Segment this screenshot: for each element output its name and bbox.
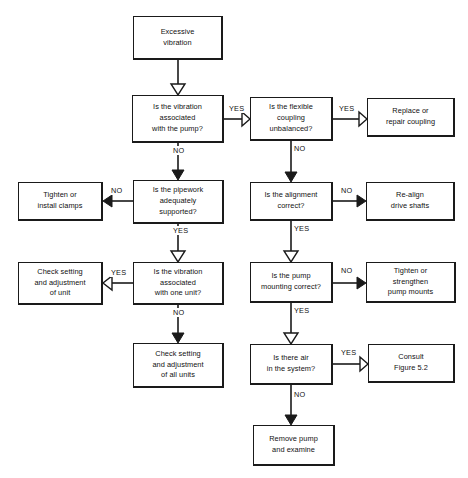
- edge-label-mounting-no: NO: [340, 266, 353, 275]
- edge-label-air-yes: YES: [340, 348, 357, 357]
- edge-label-vibration-yes: YES: [228, 104, 245, 113]
- edge-label-air-no: NO: [293, 390, 306, 399]
- node-label: Tighten or strengthen pump mounts: [388, 266, 433, 298]
- node-label: Is the pipework adequately supported?: [153, 185, 203, 217]
- node-re-align-drive-shafts[interactable]: Re-align drive shafts: [366, 182, 455, 221]
- node-excessive-vibration[interactable]: Excessive vibration: [133, 16, 223, 60]
- node-label: Tighten or install clamps: [37, 190, 82, 211]
- node-remove-pump-and-examine[interactable]: Remove pump and examine: [253, 425, 335, 466]
- node-label: Is the flexible coupling unbalanced?: [269, 102, 313, 134]
- edge-label-one-unit-yes: YES: [110, 268, 127, 277]
- node-label: Re-align drive shafts: [391, 190, 429, 211]
- node-label: Check setting and adjustment of unit: [34, 267, 85, 299]
- edge-label-vibration-no: NO: [172, 146, 185, 155]
- node-label: Is the vibration associated with one uni…: [154, 267, 203, 299]
- edge-label-one-unit-no: NO: [172, 308, 185, 317]
- node-label: Is the alignment correct?: [265, 190, 318, 211]
- node-is-alignment-correct[interactable]: Is the alignment correct?: [250, 182, 333, 221]
- flowchart-connectors: [0, 0, 468, 478]
- node-label: Consult Figure 5.2: [394, 352, 428, 373]
- node-is-pipework-adequately-supported[interactable]: Is the pipework adequately supported?: [133, 180, 224, 224]
- node-label: Is the vibration associated with the pum…: [152, 102, 203, 134]
- node-replace-or-repair-coupling[interactable]: Replace or repair coupling: [367, 98, 455, 137]
- node-is-there-air-in-the-system[interactable]: Is there air in the system?: [250, 344, 333, 385]
- node-check-setting-and-adjustment-of-all-units[interactable]: Check setting and adjustment of all unit…: [133, 343, 224, 388]
- connector-alignment-no-to-realign: [333, 195, 366, 207]
- node-label: Excessive vibration: [161, 27, 195, 48]
- node-tighten-or-install-clamps[interactable]: Tighten or install clamps: [18, 182, 103, 221]
- connector-start-to-vibration-question: [171, 60, 185, 95]
- connector-pipework-no-to-clamps: [103, 195, 133, 207]
- node-consult-figure[interactable]: Consult Figure 5.2: [368, 344, 455, 383]
- edge-label-mounting-yes: YES: [293, 306, 310, 315]
- edge-label-alignment-no: NO: [340, 186, 353, 195]
- edge-label-coupling-no: NO: [293, 144, 306, 153]
- node-is-vibration-associated-with-pump[interactable]: Is the vibration associated with the pum…: [132, 95, 224, 143]
- flowchart-canvas: Excessive vibration Is the vibration ass…: [0, 0, 468, 478]
- edge-label-alignment-yes: YES: [293, 224, 310, 233]
- connector-air-yes-to-consult: [333, 357, 368, 371]
- connector-mounting-no-to-pump-mounts: [333, 277, 366, 289]
- node-label: Remove pump and examine: [269, 434, 318, 455]
- connector-vibration-yes-to-coupling: [224, 112, 250, 126]
- node-label: Check setting and adjustment of all unit…: [152, 349, 203, 381]
- connector-coupling-yes-to-replace: [333, 112, 367, 126]
- node-is-flexible-coupling-unbalanced[interactable]: Is the flexible coupling unbalanced?: [250, 97, 333, 141]
- edge-label-coupling-yes: YES: [338, 104, 355, 113]
- edge-label-pipework-no: NO: [110, 186, 123, 195]
- node-is-vibration-associated-with-one-unit[interactable]: Is the vibration associated with one uni…: [133, 262, 224, 305]
- node-check-setting-and-adjustment-of-unit[interactable]: Check setting and adjustment of unit: [18, 262, 103, 305]
- node-label: Is the pump mounting correct?: [261, 271, 321, 292]
- node-is-pump-mounting-correct[interactable]: Is the pump mounting correct?: [250, 262, 333, 303]
- edge-label-pipework-yes: YES: [172, 226, 189, 235]
- node-tighten-or-strengthen-pump-mounts[interactable]: Tighten or strengthen pump mounts: [366, 262, 456, 303]
- connector-one-unit-yes-to-check-unit: [103, 276, 133, 290]
- node-label: Is there air in the system?: [267, 353, 315, 374]
- node-label: Replace or repair coupling: [386, 106, 435, 127]
